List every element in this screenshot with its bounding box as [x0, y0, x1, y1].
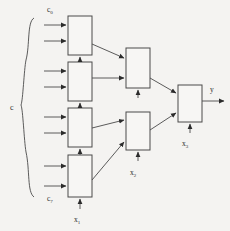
level3-output-block: [178, 85, 202, 122]
input-arrows: [44, 25, 66, 186]
input-group-label: c: [10, 103, 14, 112]
wire-l2b2-to-out: [150, 113, 176, 130]
block-diagram: c: [0, 0, 230, 231]
level1-block-3: [68, 108, 92, 147]
level1-to-level2-wires: [92, 44, 124, 180]
level1-block-1: [68, 16, 92, 55]
output-label-y: y: [210, 85, 214, 94]
wire-b4-to-l2b2: [92, 142, 124, 180]
wire-l2b1-to-out: [150, 78, 176, 93]
level2-block-1: [126, 48, 150, 88]
level2-to-level3-wires: [150, 78, 176, 130]
input-label-c0: c0: [47, 5, 53, 15]
input-label-c7: c7: [47, 194, 53, 204]
wire-b1-to-l2b1: [92, 44, 124, 58]
diagram-canvas: c: [0, 0, 230, 231]
input-group-brace: [21, 18, 34, 197]
level2-block-2: [126, 112, 150, 150]
level1-block-4: [68, 155, 92, 197]
stage3-label-x3: x3: [182, 139, 189, 149]
stage2-label-x2: x2: [130, 168, 137, 178]
level1-block-2: [68, 62, 92, 101]
wire-b3-to-l2b2: [92, 120, 124, 128]
stage1-label-x1: x1: [74, 215, 81, 225]
